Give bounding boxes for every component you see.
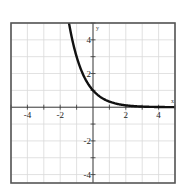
y-tick-label: -4 [84, 170, 92, 180]
y-axis-label: y [96, 25, 99, 31]
function-graph: -4-22442-2-4 x y [0, 0, 184, 190]
x-tick-label: 2 [124, 110, 129, 120]
x-tick-label: -2 [56, 110, 64, 120]
y-tick-label: -2 [84, 136, 92, 146]
x-tick-label: -4 [24, 110, 32, 120]
x-tick-label: 4 [156, 110, 161, 120]
x-axis-label: x [171, 98, 174, 104]
y-tick-label: 2 [87, 69, 92, 79]
y-tick-label: 4 [87, 35, 92, 45]
